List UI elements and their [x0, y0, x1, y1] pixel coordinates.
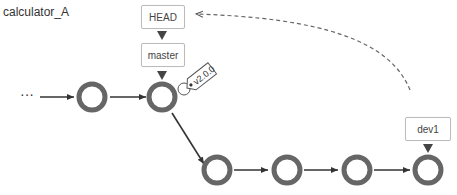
master-branch-box[interactable]: master	[141, 43, 185, 67]
history-ellipsis: ···	[20, 86, 34, 102]
commit-node-dev1[interactable]	[415, 157, 441, 183]
head-pointer-icon	[157, 31, 167, 40]
dev1-branch-box[interactable]: dev1	[405, 117, 451, 141]
dev1-label: dev1	[417, 124, 439, 135]
commit-node-master[interactable]	[149, 84, 175, 110]
head-ref-box[interactable]: HEAD	[141, 5, 185, 29]
master-label: master	[148, 50, 179, 61]
dev1-pointer-icon	[423, 144, 433, 153]
commit-graph: ··· v2.0.0	[0, 0, 457, 195]
commit-node[interactable]	[344, 157, 370, 183]
commit-node[interactable]	[274, 157, 300, 183]
head-label: HEAD	[149, 12, 177, 23]
master-pointer-icon	[157, 71, 167, 80]
commit-node[interactable]	[204, 157, 230, 183]
commit-node[interactable]	[79, 84, 105, 110]
